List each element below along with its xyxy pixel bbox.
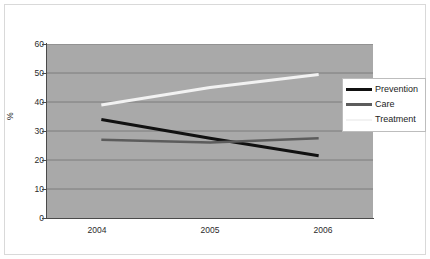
x-tick-label-2005: 2005 bbox=[185, 226, 235, 235]
legend-item-care[interactable]: Care bbox=[346, 97, 422, 112]
legend-swatch-care bbox=[346, 103, 372, 106]
y-axis-title: % bbox=[6, 112, 15, 120]
series-line-treatment bbox=[101, 74, 318, 104]
plot-canvas bbox=[47, 44, 373, 218]
legend-label-prevention: Prevention bbox=[375, 85, 418, 94]
legend-swatch-treatment bbox=[346, 119, 372, 121]
legend-item-treatment[interactable]: Treatment bbox=[346, 112, 422, 127]
y-tick-label-20: 20 bbox=[6, 156, 44, 165]
line-chart: 60 50 40 30 20 10 0 % 2004 2005 2006 Pre… bbox=[0, 0, 430, 259]
y-tick-label-10: 10 bbox=[6, 185, 44, 194]
legend-swatch-prevention bbox=[346, 88, 372, 91]
series-lines bbox=[101, 74, 318, 155]
gridlines bbox=[47, 44, 373, 189]
legend: Prevention Care Treatment bbox=[342, 78, 426, 132]
x-axis-line bbox=[46, 218, 374, 219]
y-axis-line bbox=[46, 43, 47, 219]
x-tick-label-2006: 2006 bbox=[298, 226, 348, 235]
legend-label-care: Care bbox=[375, 100, 395, 109]
y-tick-label-0: 0 bbox=[6, 214, 44, 223]
y-tick-label-60: 60 bbox=[6, 40, 44, 49]
series-line-prevention bbox=[101, 119, 318, 155]
y-tick-label-40: 40 bbox=[6, 98, 44, 107]
legend-label-treatment: Treatment bbox=[375, 115, 416, 124]
legend-item-prevention[interactable]: Prevention bbox=[346, 82, 422, 97]
x-tick-label-2004: 2004 bbox=[72, 226, 122, 235]
y-axis-ticks: 60 50 40 30 20 10 0 bbox=[0, 0, 44, 259]
plot-area bbox=[47, 44, 373, 218]
y-tick-label-50: 50 bbox=[6, 69, 44, 78]
y-tick-label-30: 30 bbox=[6, 127, 44, 136]
